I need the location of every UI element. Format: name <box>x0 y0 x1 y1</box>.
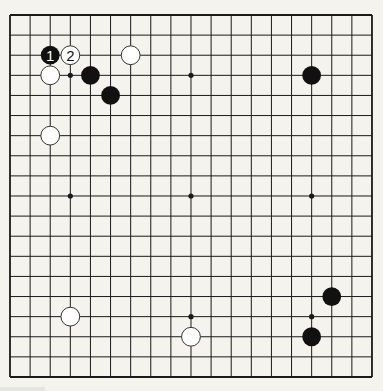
star-point <box>68 193 73 198</box>
star-point <box>188 73 193 78</box>
white-stone[interactable] <box>41 66 60 85</box>
move-number-label: 1 <box>46 47 54 64</box>
star-point <box>188 314 193 319</box>
star-point <box>68 73 73 78</box>
white-stone[interactable] <box>182 327 201 346</box>
black-stone[interactable] <box>322 287 341 306</box>
white-stone[interactable] <box>41 126 60 145</box>
black-stone[interactable] <box>101 86 120 105</box>
go-board[interactable]: 12 <box>0 0 383 391</box>
black-stone[interactable] <box>302 327 321 346</box>
white-stone[interactable] <box>121 46 140 65</box>
move-number-label: 2 <box>66 47 74 64</box>
white-stone[interactable] <box>61 307 80 326</box>
go-board-canvas[interactable]: 12 <box>0 0 383 391</box>
star-point <box>188 193 193 198</box>
star-point <box>309 314 314 319</box>
black-stone[interactable] <box>81 66 100 85</box>
white-stone[interactable]: 2 <box>61 46 80 65</box>
black-stone[interactable]: 1 <box>41 46 60 65</box>
footer-decoration <box>0 387 45 391</box>
black-stone[interactable] <box>302 66 321 85</box>
star-point <box>309 193 314 198</box>
